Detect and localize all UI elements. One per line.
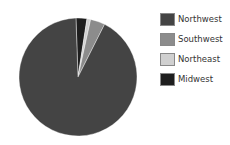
pie-chart	[0, 0, 160, 145]
legend-label: Northwest	[178, 14, 222, 24]
chart-legend: Northwest Southwest Northeast Midwest	[160, 9, 230, 89]
legend-swatch	[160, 13, 175, 26]
legend-label: Northeast	[178, 54, 220, 64]
legend-item-southwest: Southwest	[160, 29, 230, 49]
legend-swatch	[160, 53, 175, 66]
legend-label: Midwest	[178, 74, 213, 84]
legend-swatch	[160, 33, 175, 46]
legend-label: Southwest	[178, 34, 223, 44]
legend-item-northeast: Northeast	[160, 49, 230, 69]
legend-swatch	[160, 73, 175, 86]
legend-item-midwest: Midwest	[160, 69, 230, 89]
legend-item-northwest: Northwest	[160, 9, 230, 29]
